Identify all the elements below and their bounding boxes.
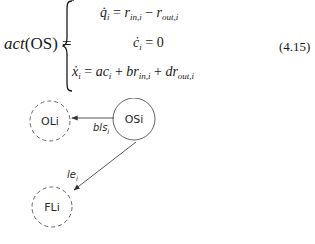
case3-term-3: dr <box>165 64 177 79</box>
case2-equals: = <box>142 35 157 50</box>
case1-minus: − <box>142 5 157 20</box>
edge-bls-label: blsi <box>93 122 109 136</box>
case-row-3: ẋi = aci + brin,i + drout,i <box>72 64 194 81</box>
case1-equals: = <box>110 5 125 20</box>
node-oli-label: OLi <box>41 115 59 128</box>
case2-rhs: 0 <box>157 35 164 50</box>
case3-term-1: ac <box>96 64 109 79</box>
case1-term-a-sub: in,i <box>130 12 142 22</box>
case1-lhs-var: q̇ <box>100 5 107 20</box>
state-diagram: OLi OSi FLi blsi lei <box>0 98 180 244</box>
case3-term-2-sub: in,i <box>139 71 151 81</box>
case-row-1: q̇i = rin,i − rout,i <box>100 5 178 22</box>
equation-number: (4.15) <box>279 39 310 55</box>
node-osi: OSi <box>113 98 155 140</box>
edge-le-label: lei <box>67 169 78 183</box>
function-name: act <box>4 34 25 53</box>
edge-le: lei <box>67 142 136 190</box>
case3-plus-1: + <box>111 64 126 79</box>
node-oli: OLi <box>30 101 70 141</box>
node-fli: FLi <box>32 187 72 227</box>
function-argument: (OS) <box>25 34 58 53</box>
node-osi-label: OSi <box>125 113 144 126</box>
case1-term-b-sub: out,i <box>162 12 178 22</box>
node-fli-label: FLi <box>44 201 60 214</box>
case-row-2: ċi = 0 <box>133 35 164 52</box>
case3-term-2: br <box>126 64 138 79</box>
case3-term-3-sub: out,i <box>178 71 194 81</box>
case3-equals: = <box>81 64 96 79</box>
edge-bls: blsi <box>72 118 114 136</box>
case3-plus-2: + <box>151 64 166 79</box>
